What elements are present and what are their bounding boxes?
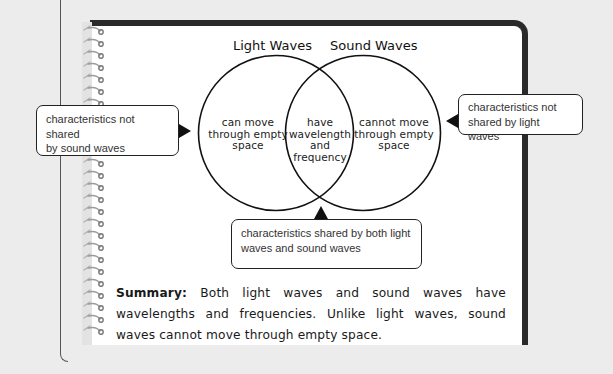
light-only-region-text: can move through empty space — [208, 117, 288, 152]
arrow-right-icon — [179, 124, 191, 138]
callout-not-shared-by-light: characteristics not shared by light wave… — [458, 94, 583, 135]
sound-only-region-text: cannot move through empty space — [354, 117, 434, 152]
shared-region-text: have wavelength and frequency — [288, 117, 352, 163]
callout-not-shared-by-sound: characteristics not shared by sound wave… — [36, 105, 179, 156]
arrow-left-icon — [446, 114, 458, 128]
sound-waves-title: Sound Waves — [330, 38, 418, 53]
arrow-up-icon — [314, 206, 328, 219]
summary-label: Summary: — [116, 286, 187, 300]
light-waves-title: Light Waves — [233, 38, 312, 53]
summary-paragraph: Summary: Both light waves and sound wave… — [116, 283, 506, 346]
callout-shared-by-both: characteristics shared by both light wav… — [231, 219, 422, 269]
